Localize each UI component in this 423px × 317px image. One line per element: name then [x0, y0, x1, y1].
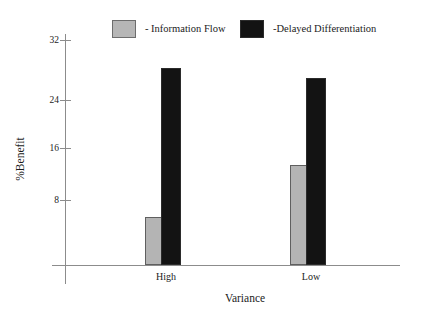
- plot-area: 32 24 16 8 High Low Variance %Benefit: [0, 0, 423, 317]
- x-axis-title: Variance: [175, 291, 315, 305]
- bar-high-delayed-differentiation[interactable]: [161, 68, 181, 265]
- x-tick-label-low: Low: [271, 271, 351, 283]
- y-tick-16: [60, 148, 71, 149]
- y-tick-label-32: 32: [19, 35, 59, 45]
- bar-low-delayed-differentiation[interactable]: [306, 78, 326, 265]
- y-axis-title: %Benefit: [13, 114, 27, 204]
- y-tick-24: [60, 100, 71, 101]
- x-tick-label-high: High: [126, 271, 206, 283]
- x-axis-line: [52, 265, 400, 266]
- y-tick-32: [60, 40, 71, 41]
- y-tick-label-24: 24: [19, 95, 59, 105]
- bar-high-information-flow[interactable]: [145, 217, 162, 265]
- y-tick-8: [60, 200, 71, 201]
- y-axis-line: [65, 34, 66, 284]
- bar-low-information-flow[interactable]: [290, 165, 307, 265]
- bar-chart-figure: - Information Flow -Delayed Differentiat…: [0, 0, 423, 317]
